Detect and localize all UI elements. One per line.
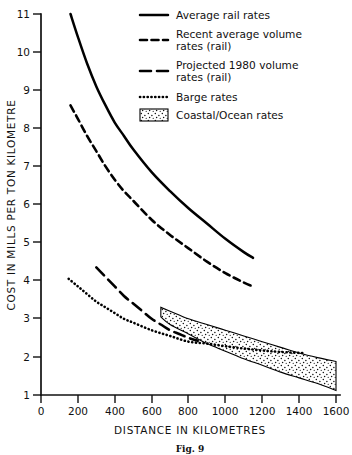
y-tick-label-7: 7 — [23, 160, 30, 172]
x-tick-label-1600: 1600 — [323, 405, 350, 417]
legend-label-recent-average-volume-rates-line1: Recent average volume — [176, 28, 302, 40]
legend-label-projected-1980-volume-rates-line1: Projected 1980 volume — [176, 59, 298, 71]
figure-caption: Fig. 9 — [176, 444, 205, 454]
y-tick-label-5: 5 — [23, 236, 30, 248]
series-recent-average-volume-rates — [71, 105, 254, 286]
x-axis-title: DISTANCE IN KILOMETRES — [114, 424, 266, 436]
y-tick-label-4: 4 — [23, 274, 30, 286]
x-tick-label-800: 800 — [178, 405, 198, 417]
y-tick-label-6: 6 — [23, 198, 30, 210]
x-tick-label-200: 200 — [68, 405, 88, 417]
x-axis: 0 200 400 600 800 1000 1200 1400 1600 — [38, 395, 350, 417]
x-tick-label-400: 400 — [105, 405, 125, 417]
series-barge-rates — [69, 279, 305, 353]
y-axis: 11 10 9 8 7 6 5 4 3 2 1 — [17, 8, 41, 401]
y-tick-label-2: 2 — [23, 351, 30, 363]
x-tick-label-600: 600 — [142, 405, 162, 417]
y-axis-title: COST IN MILLS PER TON KILOMETRE — [5, 99, 17, 310]
legend-label-average-rail-rates: Average rail rates — [176, 9, 270, 21]
legend-label-recent-average-volume-rates-line2: rates (rail) — [176, 40, 231, 52]
x-tick-label-1200: 1200 — [249, 405, 276, 417]
x-tick-label-0: 0 — [38, 405, 45, 417]
y-tick-label-10: 10 — [17, 46, 30, 58]
rate-comparison-chart: 11 10 9 8 7 6 5 4 3 2 1 0 200 400 — [0, 0, 352, 455]
legend-label-coastal-ocean-rates: Coastal/Ocean rates — [176, 109, 283, 121]
legend-label-barge-rates: Barge rates — [176, 91, 238, 103]
x-tick-label-1400: 1400 — [286, 405, 313, 417]
y-tick-label-1: 1 — [23, 389, 30, 401]
x-tick-label-1000: 1000 — [212, 405, 239, 417]
y-tick-label-3: 3 — [23, 312, 30, 324]
legend-label-projected-1980-volume-rates-line2: rates (rail) — [176, 71, 231, 83]
y-tick-label-11: 11 — [17, 8, 30, 20]
figure-container: 11 10 9 8 7 6 5 4 3 2 1 0 200 400 — [0, 0, 352, 455]
legend-swatch-coastal-ocean-rates — [140, 109, 168, 121]
y-tick-label-9: 9 — [23, 84, 30, 96]
y-tick-label-8: 8 — [23, 122, 30, 134]
legend: Average rail rates Recent average volume… — [140, 9, 302, 121]
